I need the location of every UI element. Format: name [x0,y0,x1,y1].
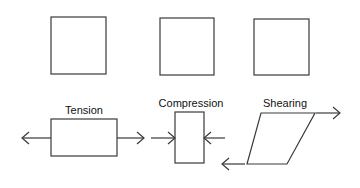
tension-label: Tension [65,104,103,116]
shearing-arrow-left-icon [222,158,245,170]
shearing-parallelogram [247,113,315,164]
square-1 [51,17,106,74]
stress-diagram-canvas [0,0,360,188]
square-3 [254,19,309,75]
compression-arrow-right-icon [151,132,175,144]
tension-arrow-left-icon [22,132,51,144]
tension-arrow-right-icon [117,132,144,144]
square-2 [160,18,214,75]
shearing-label: Shearing [263,97,307,109]
compression-label: Compression [159,97,224,109]
compression-arrow-left-icon [204,132,225,144]
shearing-arrow-right-icon [316,107,340,119]
tension-rectangle [51,119,117,156]
compression-rectangle [175,112,204,163]
